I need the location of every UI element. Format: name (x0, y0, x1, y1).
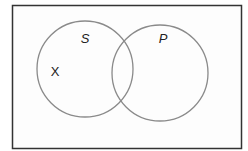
set-s-label: S (81, 31, 90, 46)
universe-rectangle (13, 6, 242, 149)
set-p-label: P (159, 31, 168, 46)
element-x-mark: X (51, 64, 60, 79)
venn-diagram: S P X (0, 0, 248, 151)
